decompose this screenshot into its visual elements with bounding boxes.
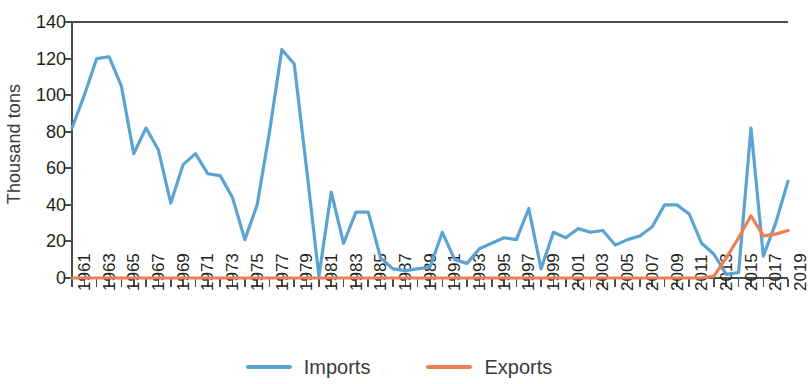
series-line-imports (72, 49, 788, 276)
legend-label: Imports (304, 356, 371, 378)
legend-item-exports[interactable]: Exports (426, 356, 552, 378)
legend-swatch-icon (246, 365, 292, 369)
series-line-exports (72, 216, 788, 278)
legend-item-imports[interactable]: Imports (246, 356, 371, 378)
chart-legend: ImportsExports (0, 352, 798, 382)
legend-label: Exports (484, 356, 552, 378)
legend-swatch-icon (426, 365, 472, 369)
